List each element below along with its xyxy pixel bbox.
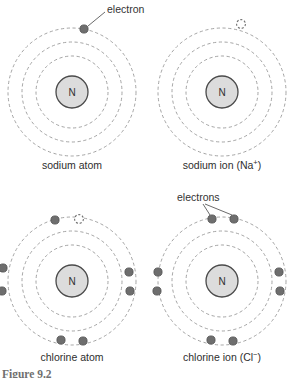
electron	[154, 268, 162, 276]
annotation-electron: electron	[107, 4, 144, 15]
caption-chlorine-ion: chlorine ion (Cl−)	[150, 352, 294, 363]
electron	[275, 268, 283, 276]
panel-sodium-atom: N	[8, 12, 136, 156]
atomic-structure-diagram: N N N	[0, 0, 296, 378]
panel-chlorine-ion: N	[153, 204, 286, 345]
nucleus-label: N	[68, 87, 75, 98]
electron	[125, 268, 133, 276]
panel-sodium-ion: N	[158, 20, 286, 156]
caption-chlorine-atom: chlorine atom	[0, 352, 144, 363]
nucleus-label: N	[218, 87, 225, 98]
caption-sodium-ion: sodium ion (Na+)	[150, 160, 294, 171]
caption-sodium-atom: sodium atom	[0, 160, 144, 171]
electron	[57, 336, 65, 344]
caption-sodium-ion-text: sodium ion (Na	[183, 159, 254, 171]
electron	[208, 215, 216, 223]
nucleus-label: N	[68, 276, 75, 287]
electron	[153, 287, 161, 295]
vacant-electron-slot	[237, 20, 246, 29]
caption-sodium-ion-tail: )	[258, 159, 262, 171]
electron	[276, 287, 284, 295]
nucleus-label: N	[218, 276, 225, 287]
caption-chlorine-ion-tail: )	[257, 351, 261, 363]
electron	[207, 336, 215, 344]
vacant-electron-slot	[75, 215, 84, 224]
figure-container: N N N	[0, 0, 296, 378]
annotation-electrons: electrons	[177, 192, 220, 203]
figure-caption: Figure 9.2	[2, 368, 52, 378]
panel-chlorine-atom: N	[0, 215, 136, 346]
electron	[79, 337, 87, 345]
electron	[0, 287, 6, 295]
electron	[0, 264, 7, 272]
electron	[51, 216, 59, 224]
electron	[230, 215, 238, 223]
electron	[126, 287, 134, 295]
leader-line-electron	[88, 12, 105, 26]
electron	[80, 25, 88, 33]
caption-chlorine-ion-text: chlorine ion (Cl	[183, 351, 253, 363]
electron	[229, 337, 237, 345]
